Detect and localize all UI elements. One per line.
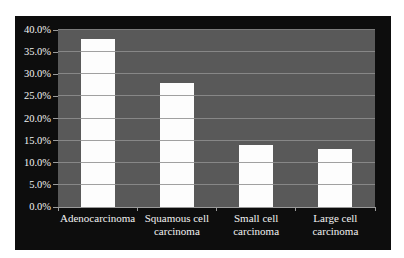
- gridline: [58, 95, 375, 96]
- y-axis-tick-label: 25.0%: [15, 90, 51, 102]
- gridline: [58, 51, 375, 52]
- bar-small-cell-carcinoma: [239, 145, 273, 207]
- x-axis-category-label-line: carcinoma: [137, 225, 216, 238]
- y-axis-tick-label: 20.0%: [15, 113, 51, 125]
- bar-squamous-cell-carcinoma: [160, 83, 194, 207]
- x-axis-ticks: [58, 207, 375, 211]
- y-axis-tick-label: 10.0%: [15, 157, 51, 169]
- y-axis-tick-label: 0.0%: [15, 201, 51, 213]
- gridline: [58, 29, 375, 30]
- plot-area: [58, 30, 375, 207]
- y-axis-tick-label: 40.0%: [15, 24, 51, 36]
- x-tick-mark: [137, 207, 138, 211]
- x-axis-category-label: Small cellcarcinoma: [217, 212, 296, 238]
- x-axis-category-label-line: Large cell: [296, 212, 375, 225]
- x-axis-category-label: Squamous cellcarcinoma: [137, 212, 216, 238]
- gridline: [58, 73, 375, 74]
- gridline: [58, 140, 375, 141]
- y-axis-tick-label: 30.0%: [15, 68, 51, 80]
- bar-slot: [296, 30, 375, 207]
- chart-frame: 0.0%5.0%10.0%15.0%20.0%25.0%30.0%35.0%40…: [15, 16, 391, 250]
- x-axis-category-label-line: carcinoma: [217, 225, 296, 238]
- x-tick-mark: [295, 207, 296, 211]
- bar-slot: [217, 30, 296, 207]
- x-axis-category-label-line: carcinoma: [296, 225, 375, 238]
- gridline: [58, 162, 375, 163]
- bar-series: [58, 30, 375, 207]
- y-axis-tick-label: 15.0%: [15, 135, 51, 147]
- gridline: [58, 118, 375, 119]
- x-axis-labels: AdenocarcinomaSquamous cellcarcinomaSmal…: [58, 212, 375, 238]
- x-axis-category-label-line: Adenocarcinoma: [58, 212, 137, 225]
- x-tick-mark: [216, 207, 217, 211]
- y-axis-tick-label: 5.0%: [15, 179, 51, 191]
- bar-large-cell-carcinoma: [318, 149, 352, 207]
- x-axis-category-label: Adenocarcinoma: [58, 212, 137, 238]
- bar-slot: [58, 30, 137, 207]
- x-tick-mark: [58, 207, 59, 211]
- y-axis-tick-label: 35.0%: [15, 46, 51, 58]
- x-axis-category-label: Large cellcarcinoma: [296, 212, 375, 238]
- x-axis-category-label-line: Squamous cell: [137, 212, 216, 225]
- bar-adenocarcinoma: [81, 39, 115, 207]
- bar-slot: [137, 30, 216, 207]
- gridline: [58, 184, 375, 185]
- chart-screenshot: 0.0%5.0%10.0%15.0%20.0%25.0%30.0%35.0%40…: [0, 0, 404, 258]
- x-axis-category-label-line: Small cell: [217, 212, 296, 225]
- y-axis-labels: 0.0%5.0%10.0%15.0%20.0%25.0%30.0%35.0%40…: [15, 30, 51, 207]
- x-tick-mark: [375, 207, 376, 211]
